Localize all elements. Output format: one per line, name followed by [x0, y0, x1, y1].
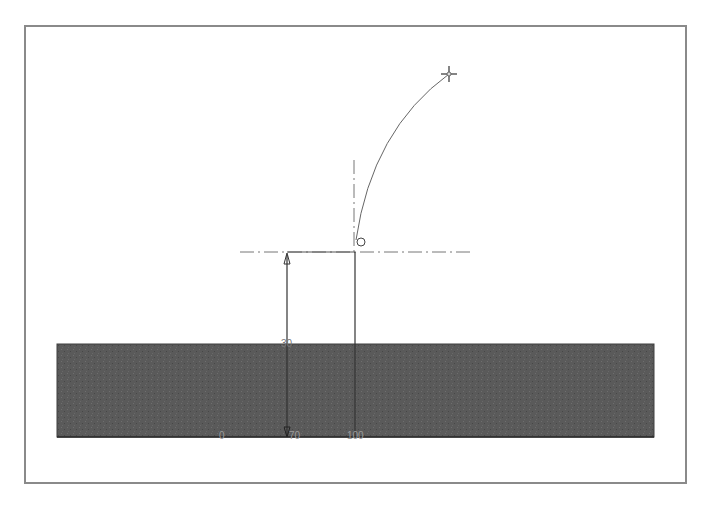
axis-label-2: 100: [347, 431, 364, 441]
dimension-label-vertical[interactable]: 30: [281, 339, 292, 349]
arc-end-point-icon[interactable]: [441, 66, 457, 82]
axis-label-0: 0: [219, 431, 225, 441]
sketch-arc[interactable]: [356, 74, 449, 240]
arc-start-point-icon[interactable]: [357, 238, 365, 246]
axis-label-1: 70: [289, 431, 300, 441]
